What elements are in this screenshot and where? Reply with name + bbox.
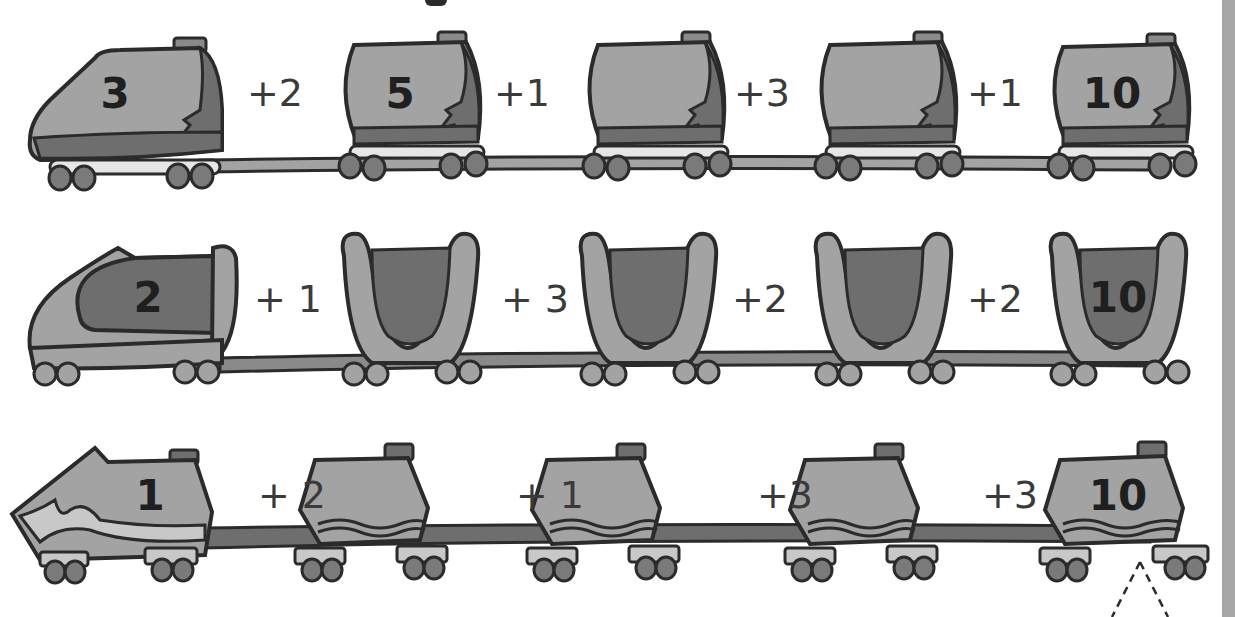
operator-label: + 3: [501, 277, 569, 321]
car-value: 1: [135, 471, 164, 520]
operator-label: +2: [732, 277, 788, 321]
operator-label: + 2: [258, 473, 326, 517]
operator-label: +3: [734, 71, 790, 115]
operator-label: +3: [982, 473, 1038, 517]
worksheet: 3 5 10 +2 +1 +3 +1: [0, 0, 1222, 617]
train-row-2: 2 10 + 1 + 3 +2 +2: [0, 228, 1222, 398]
train-car-1-4: [815, 32, 963, 180]
train-row-1: 3 5 10 +2 +1 +3 +1: [0, 20, 1222, 200]
train-car-1-3: [583, 32, 731, 180]
operator-label: +1: [967, 71, 1023, 115]
operator-label: + 1: [254, 277, 322, 321]
car-value: 10: [1089, 273, 1147, 322]
operator-label: +3: [757, 473, 813, 517]
operator-label: + 1: [516, 473, 584, 517]
train-car-3-1: [12, 448, 212, 583]
operator-label: +1: [494, 71, 550, 115]
car-value: 3: [100, 69, 129, 118]
operator-label: +2: [967, 277, 1023, 321]
cropped-title-mark: [425, 0, 447, 6]
car-value: 5: [385, 69, 414, 118]
car-value: 10: [1083, 69, 1141, 118]
operator-label: +2: [247, 71, 303, 115]
page-edge-strip: [1222, 0, 1235, 617]
train-row-3: 1 10 + 2 + 1 +3 +3: [0, 430, 1222, 617]
car-value: 2: [133, 273, 162, 322]
car-value: 10: [1089, 471, 1147, 520]
dashed-pointer-lines: [1112, 562, 1168, 617]
